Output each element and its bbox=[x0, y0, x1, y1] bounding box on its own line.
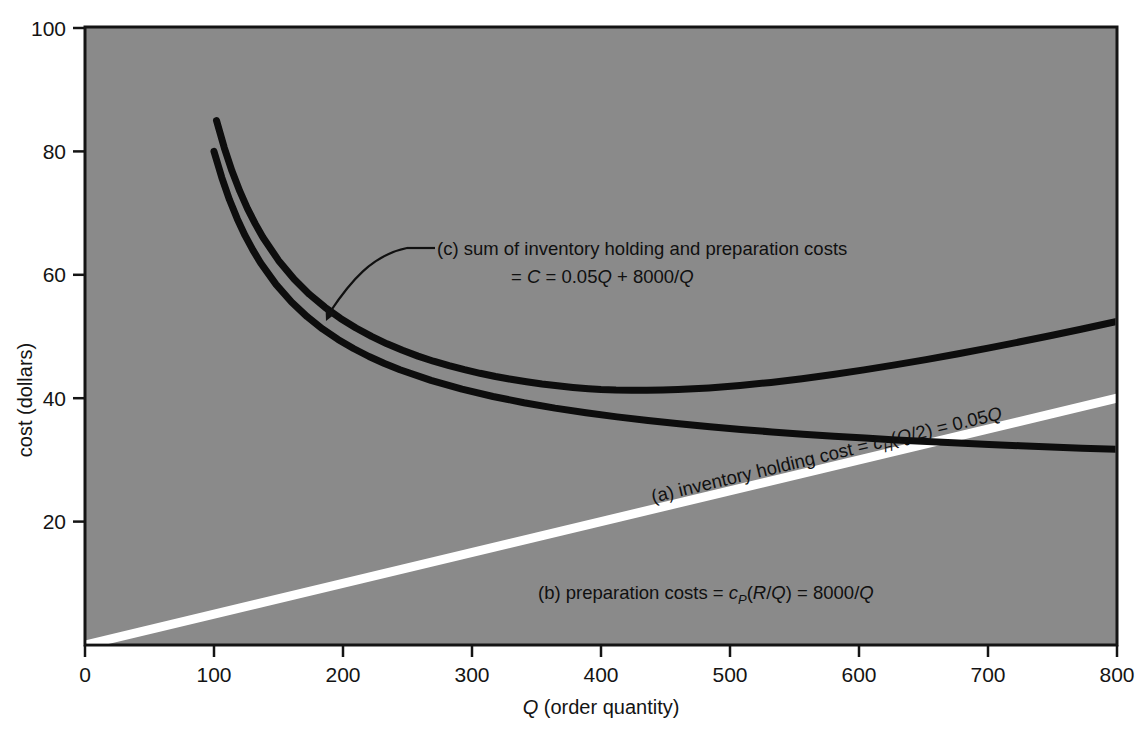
y-axis-title: cost (dollars) bbox=[14, 343, 36, 457]
annotation-c-mid: = 0.05 bbox=[540, 266, 597, 287]
annotation-c-eq-prefix: = bbox=[511, 266, 527, 287]
y-tick-label-40: 40 bbox=[43, 387, 66, 410]
x-axis-title: Q (order quantity) bbox=[523, 696, 680, 718]
figure-container: 100 80 60 40 20 cost (dollars) 0 100 200… bbox=[0, 0, 1144, 731]
y-tick-label-80: 80 bbox=[43, 140, 66, 163]
x-tick-label-300: 300 bbox=[454, 663, 489, 686]
y-tick-label-60: 60 bbox=[43, 263, 66, 286]
annotation-b-paren-close: ) = 8000/ bbox=[786, 582, 860, 603]
annotation-c-C-var: C bbox=[527, 266, 541, 287]
annotation-c-Q-var-1: Q bbox=[597, 266, 611, 287]
x-tick-label-400: 400 bbox=[583, 663, 618, 686]
x-tick-label-200: 200 bbox=[325, 663, 360, 686]
x-tick-label-800: 800 bbox=[1099, 663, 1134, 686]
x-axis-tick-labels: 0 100 200 300 400 500 600 700 800 bbox=[79, 663, 1134, 686]
x-tick-label-100: 100 bbox=[196, 663, 231, 686]
x-axis-title-rest: (order quantity) bbox=[538, 696, 679, 718]
annotation-b-Q-var-2: Q bbox=[859, 582, 873, 603]
plot-area-background bbox=[85, 27, 1117, 645]
annotation-b-prefix: (b) preparation costs = bbox=[538, 582, 729, 603]
annotation-b-R-var: R bbox=[753, 582, 766, 603]
cost-vs-order-quantity-chart: 100 80 60 40 20 cost (dollars) 0 100 200… bbox=[0, 0, 1144, 731]
x-axis-ticks bbox=[85, 645, 1117, 657]
y-tick-label-100: 100 bbox=[31, 17, 66, 40]
x-tick-label-0: 0 bbox=[79, 663, 91, 686]
annotation-b-c-subscript: P bbox=[738, 592, 747, 607]
annotation-c-line2: = C = 0.05Q + 8000/Q bbox=[511, 266, 694, 287]
x-tick-label-500: 500 bbox=[712, 663, 747, 686]
x-tick-label-700: 700 bbox=[970, 663, 1005, 686]
annotation-c-tail: + 8000/ bbox=[612, 266, 680, 287]
y-axis-ticks bbox=[73, 28, 85, 522]
x-axis-title-variable: Q bbox=[523, 696, 539, 718]
annotation-b-Q-var-1: Q bbox=[771, 582, 785, 603]
y-tick-label-20: 20 bbox=[43, 510, 66, 533]
figure-caption bbox=[8, 718, 708, 730]
annotation-c-Q-var-2: Q bbox=[679, 266, 693, 287]
y-axis-tick-labels: 100 80 60 40 20 bbox=[31, 17, 66, 533]
x-tick-label-600: 600 bbox=[841, 663, 876, 686]
annotation-c-line1: (c) sum of inventory holding and prepara… bbox=[437, 238, 847, 259]
